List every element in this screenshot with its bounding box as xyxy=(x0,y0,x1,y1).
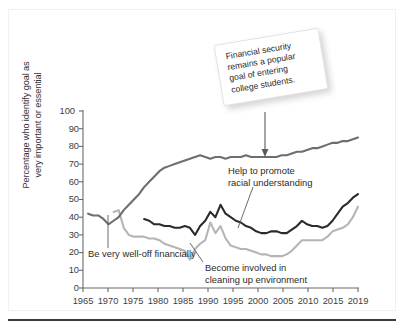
annotation-racial: Help to promote racial understanding xyxy=(228,165,312,188)
annotation-environment-line1: Become involved in xyxy=(205,262,286,273)
callout-text: Financial security remains a popular goa… xyxy=(225,40,296,94)
annotation-financial: Be very well-off financially xyxy=(88,248,196,260)
annotation-financial-text: Be very well-off financially xyxy=(88,248,196,259)
annotation-racial-line2: racial understanding xyxy=(228,177,312,188)
annotation-environment-line2: cleaning up environment xyxy=(205,274,307,285)
y-tick-marks xyxy=(79,111,83,288)
leader-line-racial xyxy=(238,187,253,228)
bottom-divider-rule xyxy=(8,319,396,321)
chart-area: Percentage who identify goal as very imp… xyxy=(0,0,404,329)
series-line-racial xyxy=(144,194,358,235)
x-tick-marks xyxy=(83,288,358,292)
chart-page: Percentage who identify goal as very imp… xyxy=(0,0,404,329)
callout-arrow-head xyxy=(262,149,269,157)
annotation-environment: Become involved in cleaning up environme… xyxy=(205,262,307,285)
plot-svg xyxy=(0,0,404,329)
annotation-racial-line1: Help to promote xyxy=(228,165,295,176)
